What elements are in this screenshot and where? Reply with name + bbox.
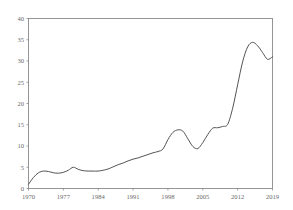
x-tick-label: 1970 [22, 193, 36, 200]
y-tick-label: 10 [17, 142, 24, 149]
y-tick-label: 25 [17, 79, 24, 86]
y-axis-tick-labels: 0510152025303540 [17, 15, 24, 192]
x-axis-tick-labels: 19701977198419911998200520122019 [22, 193, 280, 200]
y-tick-label: 35 [17, 36, 24, 43]
data-series-line [29, 42, 273, 184]
x-tick-label: 1977 [57, 193, 71, 200]
y-tick-label: 15 [17, 121, 24, 128]
chart-canvas: 0510152025303540 19701977198419911998200… [0, 0, 293, 210]
x-tick-label: 1984 [92, 193, 106, 200]
line-chart-figure: 0510152025303540 19701977198419911998200… [0, 0, 293, 210]
plot-area-frame [29, 19, 273, 189]
y-tick-label: 5 [21, 164, 25, 171]
x-tick-label: 1998 [161, 193, 175, 200]
y-tick-label: 0 [21, 185, 25, 192]
x-tick-label: 2019 [266, 193, 280, 200]
x-tick-label: 2005 [196, 193, 210, 200]
x-tick-label: 2012 [231, 193, 244, 200]
y-tick-label: 20 [17, 100, 24, 107]
y-tick-label: 30 [17, 57, 24, 64]
x-tick-label: 1991 [126, 193, 139, 200]
y-tick-label: 40 [17, 15, 24, 22]
